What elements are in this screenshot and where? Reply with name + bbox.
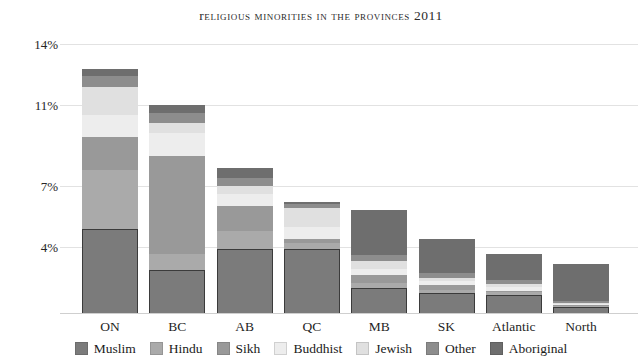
bar-segment-jewish [486,284,542,287]
bar-qc [284,0,340,313]
bar-segment-buddhist [284,227,340,239]
legend-label: Muslim [94,341,136,357]
x-axis-label-north: North [536,319,626,335]
x-axis-baseline [60,313,638,314]
bar-segment-hindu [553,306,609,307]
legend-label: Other [445,341,476,357]
bar-north [553,0,609,313]
bar-segment-aboriginal [217,168,273,178]
legend-label: Jewish [375,341,412,357]
y-axis: 14%11%7%4% [0,0,62,359]
bar-segment-aboriginal [82,69,138,76]
bar-segment-muslim [553,307,609,313]
bar-segment-hindu [419,290,475,293]
bar-segment-muslim [419,293,475,313]
y-axis-tick-label: 4% [2,241,58,254]
bar-segment-sikh [284,239,340,243]
bar-segment-buddhist [553,303,609,305]
legend-label: Aboriginal [509,341,568,357]
gridline [60,105,638,106]
bar-segment-buddhist [486,287,542,290]
bar-segment-hindu [486,292,542,294]
y-axis-tick-label: 11% [2,98,58,111]
legend-swatch-icon [150,342,163,355]
bar-segment-other [419,273,475,278]
bar-segment-sikh [149,156,205,254]
legend-item-jewish[interactable]: Jewish [356,341,412,357]
legend-swatch-icon [75,342,88,355]
bar-segment-other [553,301,609,303]
chart-legend: MuslimHinduSikhBuddhistJewishOtherAborig… [0,338,642,359]
bar-segment-muslim [284,249,340,313]
legend-swatch-icon [274,342,287,355]
bar-segment-muslim [351,288,407,313]
bar-segment-hindu [217,231,273,249]
bar-segment-other [217,178,273,186]
bar-segment-sikh [217,206,273,230]
legend-label: Sikh [236,341,261,357]
y-axis-tick-label: 14% [2,38,58,51]
legend-item-aboriginal[interactable]: Aboriginal [490,341,568,357]
bar-segment-buddhist [419,281,475,285]
legend-label: Buddhist [293,341,342,357]
bar-segment-other [486,280,542,284]
bar-segment-buddhist [351,269,407,275]
legend-item-other[interactable]: Other [426,341,476,357]
bar-segment-hindu [351,283,407,288]
bar-segment-muslim [82,229,138,313]
bar-segment-sikh [553,305,609,306]
bar-segment-jewish [284,208,340,226]
legend-item-sikh[interactable]: Sikh [217,341,261,357]
bar-segment-aboriginal [149,105,205,113]
bar-segment-jewish [149,123,205,133]
bar-segment-aboriginal [486,254,542,280]
legend-item-muslim[interactable]: Muslim [75,341,136,357]
legend-swatch-icon [356,342,369,355]
legend-swatch-icon [426,342,439,355]
bar-segment-other [82,76,138,86]
legend-swatch-icon [490,342,503,355]
bar-ab [217,0,273,313]
gridline [60,186,638,187]
bar-segment-jewish [82,87,138,115]
bar-segment-buddhist [217,194,273,206]
bar-segment-buddhist [149,133,205,155]
legend-item-hindu[interactable]: Hindu [150,341,203,357]
gridline [60,247,638,248]
bar-sk [419,0,475,313]
gridline [60,44,638,45]
bar-segment-sikh [351,275,407,283]
bar-segment-aboriginal [419,239,475,274]
bar-on [82,0,138,313]
bar-segment-jewish [419,278,475,280]
bar-segment-buddhist [82,115,138,137]
bar-segment-muslim [149,270,205,313]
chart-root: Religious Minorities in the Provinces 20… [0,0,642,359]
bar-segment-muslim [217,249,273,313]
bar-segment-aboriginal [553,264,609,300]
bar-segment-muslim [486,295,542,313]
bar-segment-hindu [149,254,205,271]
bar-segment-hindu [82,170,138,229]
bar-segment-jewish [217,186,273,194]
bar-segment-hindu [284,243,340,250]
bar-bc [149,0,205,313]
bar-segment-aboriginal [351,210,407,255]
bar-segment-other [149,113,205,123]
y-axis-tick-label: 7% [2,180,58,193]
bar-segment-sikh [419,285,475,290]
bar-segment-jewish [553,303,609,304]
bar-segment-sikh [82,137,138,169]
bar-segment-other [284,204,340,208]
bar-segment-sikh [486,291,542,293]
legend-swatch-icon [217,342,230,355]
legend-label: Hindu [169,341,203,357]
bar-atlantic [486,0,542,313]
bar-segment-jewish [351,261,407,269]
bar-segment-aboriginal [284,202,340,204]
bar-mb [351,0,407,313]
bar-segment-other [351,255,407,261]
legend-item-buddhist[interactable]: Buddhist [274,341,342,357]
